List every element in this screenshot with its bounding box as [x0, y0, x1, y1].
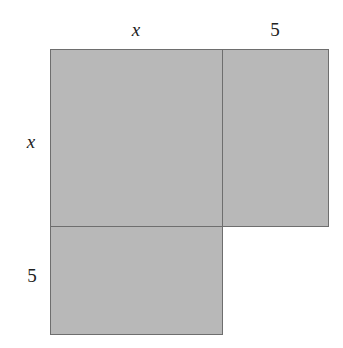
square-x-by-x — [50, 49, 223, 227]
left-label-5: 5 — [27, 266, 37, 285]
top-label-5: 5 — [270, 20, 280, 39]
left-label-x: x — [27, 132, 35, 151]
area-model-diagram: x 5 x 5 — [0, 0, 343, 348]
rectangle-x-by-5 — [50, 226, 223, 335]
rectangle-5-by-x — [222, 49, 329, 227]
top-label-x: x — [132, 20, 140, 39]
